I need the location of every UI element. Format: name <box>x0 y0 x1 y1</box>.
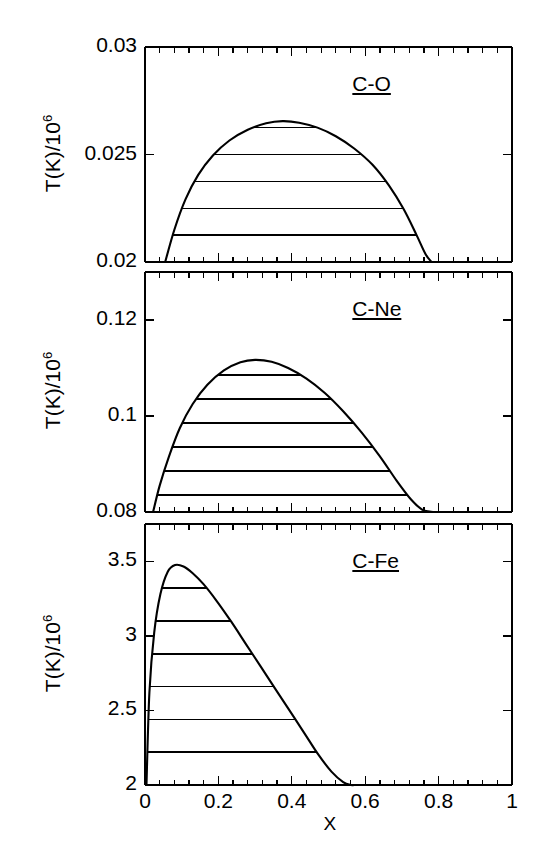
xtick-label: 0.6 <box>335 789 395 813</box>
xtick-label: 0.8 <box>409 789 469 813</box>
panel-c-fe-canvas <box>0 0 545 853</box>
xtick-label: 0.4 <box>262 789 322 813</box>
xtick-label: 0 <box>115 789 175 813</box>
ytick-label: 3.5 <box>32 547 137 571</box>
xtick-label: 1 <box>482 789 542 813</box>
panel-c-fe: 22.533.5C-FeT(K)/106 <box>0 0 545 853</box>
panel-label-c-fe: C-Fe <box>352 549 399 573</box>
xtick-label: 0.2 <box>188 789 248 813</box>
yaxis-title-exponent: 6 <box>40 614 55 621</box>
yaxis-title: T(K)/106 <box>40 573 65 733</box>
yaxis-title-base: T(K)/10 <box>41 622 64 692</box>
figure-root: 0.020.0250.03C-OT(K)/1060.080.10.12C-NeT… <box>0 0 545 853</box>
xaxis-title: X <box>324 813 337 835</box>
